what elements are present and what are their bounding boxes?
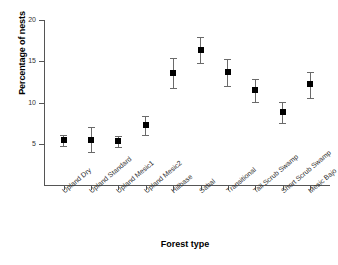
error-bar-cap-upper [279, 102, 286, 103]
y-axis-line [44, 20, 45, 185]
y-tick-label-text: 10 [16, 99, 36, 106]
data-marker [170, 70, 176, 76]
error-bar-cap-upper [142, 116, 149, 117]
error-bar-cap-lower [307, 98, 314, 99]
data-marker [198, 47, 204, 53]
data-marker [88, 137, 94, 143]
error-bar-cap-upper [88, 127, 95, 128]
y-tick-label-20: 20 [16, 16, 36, 23]
error-bar-cap-lower [170, 88, 177, 89]
y-tick-label-text: 20 [16, 16, 36, 23]
y-tick-10 [39, 103, 44, 104]
y-tick-label-10: 10 [16, 99, 36, 106]
y-tick-15 [39, 61, 44, 62]
y-tick-label-text: 15 [16, 57, 36, 64]
error-bar-cap-upper [197, 37, 204, 38]
error-bar-cap-lower [60, 146, 67, 147]
error-bar-cap-lower [252, 102, 259, 103]
data-marker [143, 122, 149, 128]
data-marker [280, 109, 286, 115]
y-tick-label-15: 15 [16, 57, 36, 64]
x-axis-title: Forest type [40, 239, 330, 249]
chart-figure: Percentage of nests 5101520 Upland DryUp… [0, 0, 338, 265]
data-marker [115, 138, 121, 144]
error-bar-cap-upper [115, 136, 122, 137]
error-bar-cap-upper [307, 72, 314, 73]
data-marker [252, 87, 258, 93]
y-tick-label-5: 5 [16, 140, 36, 147]
error-bar-cap-lower [142, 135, 149, 136]
error-bar-cap-lower [224, 86, 231, 87]
error-bar-cap-upper [60, 135, 67, 136]
data-marker [61, 137, 67, 143]
error-bar-cap-lower [88, 152, 95, 153]
error-bar-cap-upper [252, 79, 259, 80]
error-bar-cap-lower [115, 147, 122, 148]
y-tick-5 [39, 144, 44, 145]
error-bar-cap-lower [279, 123, 286, 124]
data-marker [225, 69, 231, 75]
y-tick-20 [39, 20, 44, 21]
error-bar-cap-lower [197, 63, 204, 64]
error-bar-cap-upper [170, 58, 177, 59]
y-tick-label-text: 5 [16, 140, 36, 147]
data-marker [307, 81, 313, 87]
error-bar-cap-upper [224, 59, 231, 60]
